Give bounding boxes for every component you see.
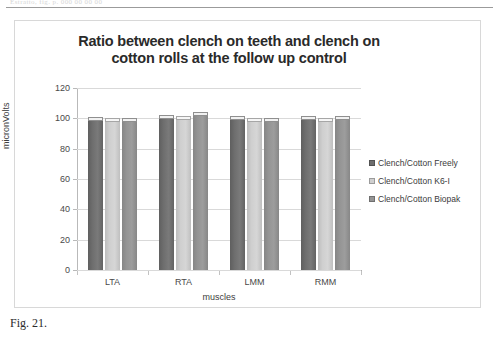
bar-group-rta: [148, 88, 219, 270]
x-tick-mark: [219, 271, 220, 275]
bar-cap: [230, 116, 245, 120]
page-scan-header-text: Estratto, fig. p. 000 00 00 00: [10, 0, 102, 6]
bar-cap: [301, 116, 316, 120]
bar-cap: [318, 118, 333, 122]
bar-lmm-series-2[interactable]: [264, 118, 279, 270]
y-tick-label-80: 80: [60, 144, 70, 154]
figure-caption: Fig. 21.: [10, 316, 47, 331]
legend-label: Clench/Cotton Biopak: [378, 194, 460, 204]
legend-swatch-icon: [369, 178, 375, 184]
legend-label: Clench/Cotton K6-I: [378, 176, 450, 186]
x-tick-label-rta: RTA: [175, 277, 192, 287]
bar-cap: [247, 118, 262, 122]
bar-cap: [264, 118, 279, 122]
bar-cap: [122, 118, 137, 122]
bar-rta-series-2[interactable]: [193, 112, 208, 270]
bar-body: [105, 121, 120, 270]
bar-cap: [176, 116, 191, 120]
bar-rmm-series-1[interactable]: [318, 118, 333, 270]
bar-body: [264, 121, 279, 270]
x-axis-title: muscles: [77, 292, 361, 302]
bar-body: [335, 119, 350, 270]
bar-lmm-series-0[interactable]: [230, 116, 245, 270]
legend-item-0[interactable]: Clench/Cotton Freely: [369, 158, 479, 168]
legend-swatch-icon: [369, 196, 375, 202]
bar-body: [159, 118, 174, 270]
y-tick-label-20: 20: [60, 235, 70, 245]
plot-area: 020406080100120: [77, 88, 361, 270]
bar-lta-series-0[interactable]: [88, 117, 103, 270]
y-tick-label-100: 100: [55, 113, 70, 123]
legend-swatch-icon: [369, 160, 375, 166]
x-tick-mark: [148, 271, 149, 275]
chart-title: Ratio between clench on teeth and clench…: [39, 33, 419, 67]
y-axis-title: micronVolts: [1, 102, 11, 149]
y-tick-label-40: 40: [60, 204, 70, 214]
bar-body: [122, 121, 137, 270]
bar-cap: [105, 118, 120, 122]
bar-lmm-series-1[interactable]: [247, 118, 262, 270]
chart-title-line-2: cotton rolls at the follow up control: [39, 50, 419, 67]
chart-title-line-1: Ratio between clench on teeth and clench…: [39, 33, 419, 50]
bar-rmm-series-0[interactable]: [301, 116, 316, 270]
bar-body: [176, 119, 191, 270]
bar-group-lmm: [219, 88, 290, 270]
x-tick-mark: [290, 271, 291, 275]
bar-body: [230, 119, 245, 270]
bar-cap: [193, 112, 208, 116]
bar-lta-series-1[interactable]: [105, 118, 120, 270]
x-tick-label-rmm: RMM: [315, 277, 337, 287]
bar-cap: [88, 117, 103, 121]
y-tick-label-120: 120: [55, 83, 70, 93]
chart-legend: Clench/Cotton FreelyClench/Cotton K6-ICl…: [369, 158, 479, 212]
bar-lta-series-2[interactable]: [122, 118, 137, 270]
x-tick-mark: [77, 271, 78, 275]
y-tick-label-60: 60: [60, 174, 70, 184]
bar-group-rmm: [290, 88, 361, 270]
bar-body: [88, 120, 103, 270]
bar-body: [318, 121, 333, 270]
legend-label: Clench/Cotton Freely: [378, 158, 458, 168]
x-tick-label-lmm: LMM: [245, 277, 265, 287]
page-header-rule: [6, 7, 493, 8]
bar-group-lta: [77, 88, 148, 270]
bar-body: [247, 121, 262, 270]
x-tick-mark: [361, 271, 362, 275]
bar-rta-series-0[interactable]: [159, 115, 174, 270]
figure-frame: Ratio between clench on teeth and clench…: [14, 20, 481, 308]
bar-cap: [335, 116, 350, 120]
y-tick-label-0: 0: [65, 265, 70, 275]
bar-cap: [159, 115, 174, 119]
bar-body: [301, 119, 316, 270]
bar-body: [193, 115, 208, 270]
bar-rmm-series-2[interactable]: [335, 116, 350, 270]
legend-item-1[interactable]: Clench/Cotton K6-I: [369, 176, 479, 186]
legend-item-2[interactable]: Clench/Cotton Biopak: [369, 194, 479, 204]
bar-rta-series-1[interactable]: [176, 116, 191, 270]
x-tick-label-lta: LTA: [105, 277, 120, 287]
